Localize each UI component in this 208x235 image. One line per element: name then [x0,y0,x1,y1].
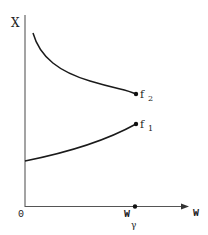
f1-label: f [140,118,145,131]
w-gamma-label: W [124,209,130,220]
f1-subscript: 1 [148,124,153,133]
f2-label: f [140,88,145,101]
f1-endpoint [134,122,138,126]
diagram-canvas: X 0 W W γ f 2 f 1 [0,0,208,235]
origin-label: 0 [18,209,24,220]
x-axis-arrowhead-icon [181,204,189,210]
curve-f1 [25,124,136,161]
y-axis-label: X [11,16,20,30]
f2-endpoint [134,92,138,96]
w-gamma-subscript: γ [131,220,136,230]
w-gamma-point [133,204,137,208]
curve-f2 [33,33,136,94]
diagram-figure: X 0 W W γ f 2 f 1 [0,0,208,235]
f2-subscript: 2 [148,94,153,103]
x-axis-label: W [193,208,199,219]
